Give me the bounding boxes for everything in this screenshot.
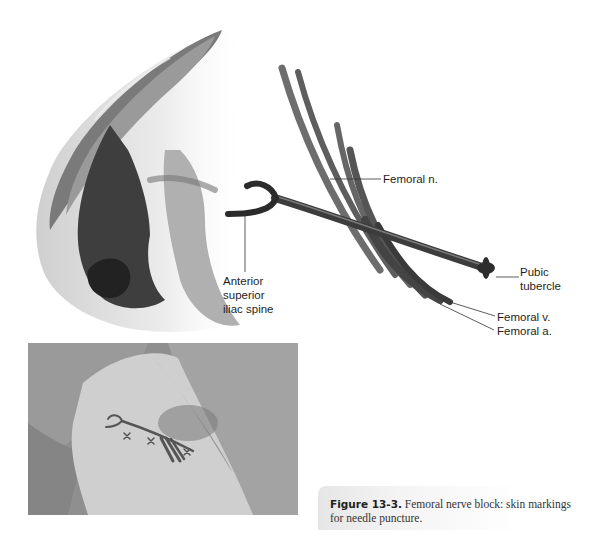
- document-page: Femoral n. Anterior superior iliac spine…: [0, 0, 590, 546]
- label-femoral-nerve: Femoral n.: [383, 172, 438, 186]
- label-anterior-superior-iliac-spine: Anterior superior iliac spine: [223, 274, 274, 316]
- label-femoral-vein: Femoral v.: [497, 310, 550, 324]
- label-femoral-artery: Femoral a.: [497, 324, 552, 338]
- anatomical-illustration: [0, 0, 590, 340]
- label-pubic-tubercle: Pubic tubercle: [520, 265, 561, 293]
- pelvis-drawing: [36, 30, 250, 332]
- clinical-photo: [28, 343, 298, 515]
- pubic-tubercle-shape: [477, 257, 495, 279]
- figure-number: Figure 13-3.: [330, 498, 402, 510]
- leader-femoral-a: [440, 304, 494, 330]
- clinical-photo-drawing: [28, 343, 298, 515]
- leader-femoral-v: [450, 302, 495, 316]
- figure-caption: Figure 13-3. Femoral nerve block: skin m…: [330, 497, 580, 525]
